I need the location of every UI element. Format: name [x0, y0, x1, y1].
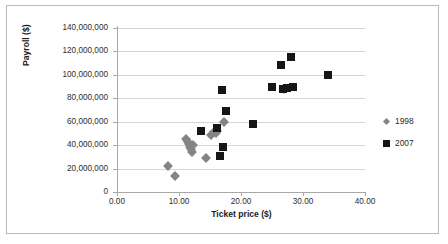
- y-axis-tick-label: 120,000,000: [62, 47, 108, 55]
- y-axis-tick-label: 80,000,000: [67, 94, 108, 102]
- data-point-1998: [170, 171, 180, 181]
- y-axis-tick-label: 140,000,000: [62, 24, 108, 32]
- chart-frame: 020,000,00040,000,00060,000,00080,000,00…: [6, 5, 439, 234]
- data-point-2007: [277, 61, 285, 69]
- y-axis-tick-label: 60,000,000: [67, 118, 108, 126]
- data-point-1998: [201, 153, 211, 163]
- data-point-2007: [287, 53, 295, 61]
- gridline-horizontal: [117, 28, 365, 29]
- y-axis-tick-label: 100,000,000: [62, 71, 108, 79]
- y-axis-tick-label: 20,000,000: [67, 165, 108, 173]
- gridline-horizontal: [117, 169, 365, 170]
- gridline-horizontal: [117, 122, 365, 123]
- data-point-2007: [222, 107, 230, 115]
- x-axis-tick-label: 10.00: [169, 198, 190, 206]
- chart-legend: 19982007: [379, 110, 414, 154]
- data-point-2007: [216, 152, 224, 160]
- square-marker-icon: [379, 140, 393, 147]
- gridline-horizontal: [117, 145, 365, 146]
- y-axis-title: Payroll ($): [21, 24, 31, 66]
- x-axis-tick-label: 20.00: [231, 198, 252, 206]
- y-axis-tick-label: 0: [103, 188, 108, 196]
- legend-label: 1998: [395, 116, 414, 126]
- diamond-marker-icon: [379, 119, 393, 124]
- data-point-1998: [164, 161, 174, 171]
- gridline-horizontal: [117, 51, 365, 52]
- data-point-2007: [213, 124, 221, 132]
- legend-item-2007: 2007: [379, 132, 414, 154]
- gridline-horizontal: [117, 98, 365, 99]
- y-axis-line: [117, 26, 118, 194]
- data-point-2007: [249, 120, 257, 128]
- legend-label: 2007: [395, 138, 414, 148]
- scatter-chart-screenshot: 020,000,00040,000,00060,000,00080,000,00…: [0, 0, 448, 244]
- data-point-2007: [218, 86, 226, 94]
- data-point-2007: [219, 143, 227, 151]
- data-point-2007: [268, 83, 276, 91]
- data-point-2007: [324, 71, 332, 79]
- y-axis-tick-label: 40,000,000: [67, 141, 108, 149]
- x-axis-tick-label: 0.00: [109, 198, 125, 206]
- x-axis-tick-label: 30.00: [293, 198, 314, 206]
- legend-item-1998: 1998: [379, 110, 414, 132]
- data-point-2007: [197, 127, 205, 135]
- x-axis-line: [117, 192, 366, 193]
- plot-area: [117, 28, 365, 192]
- data-point-2007: [289, 83, 297, 91]
- x-axis-title: Ticket price ($): [117, 209, 366, 219]
- x-axis-tick-label: 40.00: [355, 198, 376, 206]
